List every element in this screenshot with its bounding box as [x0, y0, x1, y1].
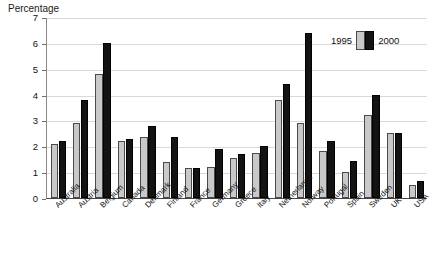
bar-finland-1995	[163, 162, 170, 198]
y-tick-mark-3	[42, 121, 46, 122]
bar-usa-1995	[409, 185, 416, 198]
bar-uk-1995	[387, 133, 394, 198]
bar-uk-2000	[395, 133, 402, 198]
y-tick-mark-6	[42, 44, 46, 45]
bar-group	[95, 18, 110, 198]
y-tick-mark-7	[42, 18, 46, 19]
bar-france-2000	[193, 168, 200, 198]
bar-netherlands-1995	[275, 100, 282, 198]
bar-germany-1995	[207, 167, 214, 198]
legend-swatches	[356, 31, 374, 50]
bar-finland-2000	[171, 137, 178, 198]
y-tick-mark-4	[42, 96, 46, 97]
bar-group	[252, 18, 267, 198]
bar-netherlands-2000	[283, 84, 290, 198]
legend-swatch-2000	[365, 31, 374, 50]
bar-portugal-1995	[319, 151, 326, 198]
bar-canada-1995	[118, 141, 125, 198]
legend: 1995 2000	[331, 31, 399, 50]
bar-group	[118, 18, 133, 198]
legend-label-2000: 2000	[378, 36, 399, 46]
y-tick-label-5: 5	[24, 65, 38, 75]
y-tick-mark-1	[42, 173, 46, 174]
y-tick-label-7: 7	[24, 13, 38, 23]
legend-swatch-1995	[356, 31, 365, 50]
bar-group	[163, 18, 178, 198]
y-tick-label-4: 4	[24, 91, 38, 101]
bar-italy-2000	[260, 146, 267, 198]
bar-norway-1995	[297, 123, 304, 198]
bar-canada-2000	[126, 139, 133, 198]
bar-group	[140, 18, 155, 198]
bar-greece-1995	[230, 158, 237, 198]
bar-australia-2000	[59, 141, 66, 198]
bar-denmark-2000	[148, 126, 155, 198]
y-tick-label-1: 1	[24, 168, 38, 178]
bar-group	[185, 18, 200, 198]
bar-group	[73, 18, 88, 198]
bar-greece-2000	[238, 154, 245, 198]
bar-italy-1995	[252, 153, 259, 198]
bar-belgium-1995	[95, 74, 102, 198]
y-tick-mark-5	[42, 70, 46, 71]
y-tick-label-0: 0	[24, 194, 38, 204]
bar-group	[230, 18, 245, 198]
legend-label-1995: 1995	[331, 36, 352, 46]
bar-france-1995	[185, 168, 192, 198]
bar-australia-1995	[51, 144, 58, 198]
bar-spain-1995	[342, 172, 349, 198]
bar-austria-1995	[73, 123, 80, 198]
bar-germany-2000	[215, 149, 222, 198]
bar-sweden-1995	[364, 115, 371, 198]
y-tick-label-2: 2	[24, 142, 38, 152]
bar-chart: Percentage 01234567 AustraliaAustriaBelg…	[0, 0, 435, 256]
y-tick-label-6: 6	[24, 39, 38, 49]
bar-usa-2000	[417, 181, 424, 198]
bar-spain-2000	[350, 161, 357, 198]
bar-belgium-2000	[103, 43, 110, 198]
bar-group	[207, 18, 222, 198]
bar-group	[297, 18, 312, 198]
bar-group	[51, 18, 66, 198]
bar-group	[275, 18, 290, 198]
bar-norway-2000	[305, 33, 312, 198]
y-tick-label-3: 3	[24, 116, 38, 126]
bar-sweden-2000	[372, 95, 379, 198]
y-tick-mark-0	[42, 199, 46, 200]
bar-group	[409, 18, 424, 198]
bar-portugal-2000	[327, 141, 334, 198]
bar-denmark-1995	[140, 137, 147, 198]
y-tick-mark-2	[42, 147, 46, 148]
bar-austria-2000	[81, 100, 88, 198]
